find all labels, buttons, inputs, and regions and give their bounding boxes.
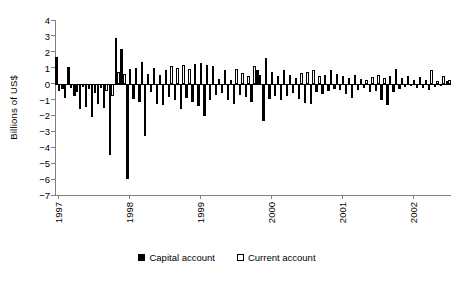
bar-capital-account — [310, 84, 312, 105]
bar-current-account — [442, 76, 444, 83]
bar-current-account — [218, 79, 220, 84]
bar-current-account — [306, 72, 308, 84]
bar-capital-account — [126, 84, 128, 179]
bar-capital-account — [115, 38, 117, 84]
bar-current-account — [277, 76, 279, 83]
bar-capital-account — [233, 84, 235, 105]
bar-capital-account — [191, 84, 193, 102]
x-axis-tick-label: 2002 — [408, 202, 419, 223]
bar-capital-account — [404, 84, 406, 87]
y-axis-tick-mark — [51, 35, 55, 36]
y-axis-title-text: Billions of US$ — [8, 75, 19, 140]
bar-capital-account — [61, 84, 63, 90]
bar-capital-account — [357, 84, 359, 90]
bar-capital-account — [132, 84, 134, 99]
bar-current-account — [105, 84, 107, 91]
bar-capital-account — [262, 84, 264, 121]
bar-current-account — [170, 66, 172, 84]
bar-capital-account — [174, 84, 176, 100]
y-axis-tick-label: −5 — [39, 158, 50, 169]
filled-square-icon — [138, 254, 145, 261]
bar-capital-account — [369, 84, 371, 93]
bar-capital-account — [416, 84, 418, 89]
bar-capital-account — [156, 84, 158, 104]
x-axis-tick-mark — [413, 195, 414, 199]
x-axis-tick-mark — [200, 195, 201, 199]
legend-item-capital-account: Capital account — [138, 252, 214, 263]
bar-capital-account — [410, 84, 412, 86]
x-axis-tick-label: 1997 — [53, 202, 64, 223]
bar-capital-account — [298, 84, 300, 99]
bar-capital-account — [321, 84, 323, 94]
bar-current-account — [354, 75, 356, 84]
y-axis-tick-label: −4 — [39, 142, 50, 153]
bar-capital-account — [197, 84, 199, 106]
bar-capital-account — [168, 84, 170, 98]
bar-capital-account — [446, 81, 448, 83]
plot-area: 43210−1−2−3−4−5−6−7 — [55, 20, 451, 195]
bar-capital-account — [239, 84, 241, 95]
bar-current-account — [425, 80, 427, 83]
bar-capital-account — [85, 84, 87, 107]
x-axis-tick-label: 1999 — [195, 202, 206, 223]
y-axis-tick-mark — [51, 115, 55, 116]
bar-current-account — [100, 84, 102, 89]
bar-current-account — [58, 84, 60, 91]
bar-current-account — [230, 80, 232, 83]
bar-current-account — [253, 66, 255, 84]
bar-current-account — [389, 76, 391, 83]
bar-capital-account — [221, 84, 223, 94]
y-axis-tick-label: 2 — [45, 46, 50, 57]
bar-capital-account — [138, 84, 140, 102]
bar-current-account — [360, 79, 362, 84]
bar-current-account — [176, 68, 178, 84]
y-axis-tick-mark — [51, 20, 55, 21]
bar-capital-account — [109, 84, 111, 156]
bar-capital-account — [215, 84, 217, 95]
bar-capital-account — [280, 84, 282, 101]
bar-capital-account — [434, 84, 436, 87]
bar-capital-account — [185, 84, 187, 98]
bar-current-account — [153, 68, 155, 84]
bar-current-account — [235, 69, 237, 84]
y-axis-tick-mark — [51, 67, 55, 68]
bar-capital-account — [268, 84, 270, 99]
bar-current-account — [448, 80, 450, 83]
bar-current-account — [212, 66, 214, 84]
bar-capital-account — [97, 84, 99, 105]
bar-current-account — [300, 73, 302, 83]
bar-capital-account — [398, 84, 400, 90]
bar-current-account — [324, 75, 326, 84]
bar-capital-account — [375, 84, 377, 91]
bar-current-account — [159, 75, 161, 84]
bar-current-account — [111, 84, 113, 96]
bar-capital-account — [345, 84, 347, 94]
bar-current-account — [200, 63, 202, 84]
y-axis-tick-label: 1 — [45, 62, 50, 73]
x-axis-tick-mark — [342, 195, 343, 199]
bar-capital-account — [428, 84, 430, 90]
x-axis-tick-label: 2000 — [266, 202, 277, 223]
y-axis-tick-mark — [51, 179, 55, 180]
bar-capital-account — [227, 84, 229, 100]
bar-current-account — [377, 75, 379, 84]
y-axis-tick-mark — [51, 131, 55, 132]
bar-capital-account — [144, 84, 146, 137]
legend-label-current-account: Current account — [248, 252, 316, 263]
bar-current-account — [165, 70, 167, 84]
bar-current-account — [312, 70, 314, 84]
bar-capital-account — [180, 84, 182, 109]
y-axis-tick-label: 4 — [45, 15, 50, 26]
y-axis-tick-label: 3 — [45, 30, 50, 41]
bar-capital-account — [150, 84, 152, 92]
bar-current-account — [430, 70, 432, 84]
y-axis-tick-label: −3 — [39, 126, 50, 137]
bar-capital-account — [256, 70, 258, 84]
bar-current-account — [70, 84, 72, 88]
bar-capital-account — [79, 84, 81, 109]
bar-capital-account — [245, 84, 247, 98]
bar-current-account — [194, 64, 196, 84]
bar-current-account — [206, 65, 208, 84]
open-square-icon — [237, 254, 244, 261]
bar-current-account — [188, 69, 190, 84]
